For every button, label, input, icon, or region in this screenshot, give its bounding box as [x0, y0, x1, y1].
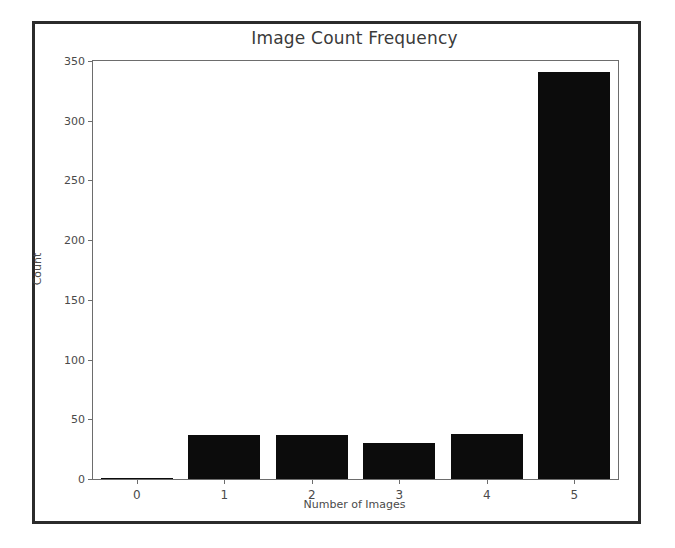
y-tick-label-250: 250	[64, 174, 85, 187]
y-tick-label-150: 150	[64, 293, 85, 306]
y-tick-mark-100	[88, 360, 93, 361]
bar-1	[188, 435, 260, 479]
y-tick-label-350: 350	[64, 55, 85, 68]
plot-area: 050100150200250300350 012345	[92, 60, 619, 480]
x-tick-mark-4	[487, 479, 488, 484]
y-tick-mark-50	[88, 419, 93, 420]
x-tick-mark-0	[137, 479, 138, 484]
x-tick-mark-3	[399, 479, 400, 484]
bar-3	[363, 443, 435, 479]
y-tick-label-200: 200	[64, 234, 85, 247]
figure-root: Image Count Frequency 050100150200250300…	[0, 0, 675, 548]
y-tick-label-0: 0	[78, 473, 85, 486]
x-tick-mark-5	[574, 479, 575, 484]
y-tick-mark-200	[88, 240, 93, 241]
bar-5	[538, 72, 610, 479]
x-tick-mark-2	[312, 479, 313, 484]
x-axis-label: Number of Images	[92, 498, 617, 511]
bars-layer	[93, 61, 618, 479]
y-tick-mark-250	[88, 180, 93, 181]
bar-4	[451, 434, 523, 479]
y-tick-label-100: 100	[64, 353, 85, 366]
y-tick-mark-350	[88, 61, 93, 62]
y-tick-label-50: 50	[71, 413, 85, 426]
y-tick-mark-150	[88, 300, 93, 301]
chart-title: Image Count Frequency	[92, 28, 617, 48]
x-tick-mark-1	[224, 479, 225, 484]
y-tick-label-300: 300	[64, 114, 85, 127]
y-tick-mark-300	[88, 121, 93, 122]
bar-2	[276, 435, 348, 479]
y-axis-label: Count	[31, 253, 44, 286]
y-tick-mark-0	[88, 479, 93, 480]
